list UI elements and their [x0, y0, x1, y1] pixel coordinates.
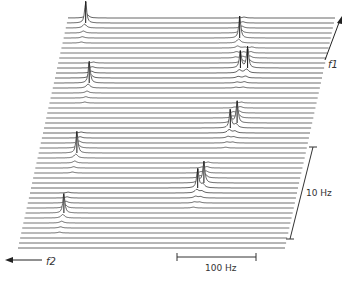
f1-arrowhead-icon: [337, 16, 342, 24]
trace-mask: [67, 2, 334, 28]
y-scale-bar-label: 10 Hz: [306, 188, 332, 198]
f2-label: f2: [46, 256, 56, 267]
spectrum-traces: [18, 2, 335, 253]
trace-mask: [68, 14, 335, 23]
f2-arrowhead-icon: [5, 257, 13, 263]
waterfall-plot: f1 f2 100 Hz 10 Hz: [0, 0, 357, 285]
trace-mask: [19, 243, 286, 248]
trace-mask: [20, 238, 287, 243]
spectrum-trace: [68, 14, 335, 18]
trace-mask: [18, 248, 285, 253]
f1-label: f1: [328, 59, 338, 70]
x-scale-bar-label: 100 Hz: [205, 263, 237, 273]
